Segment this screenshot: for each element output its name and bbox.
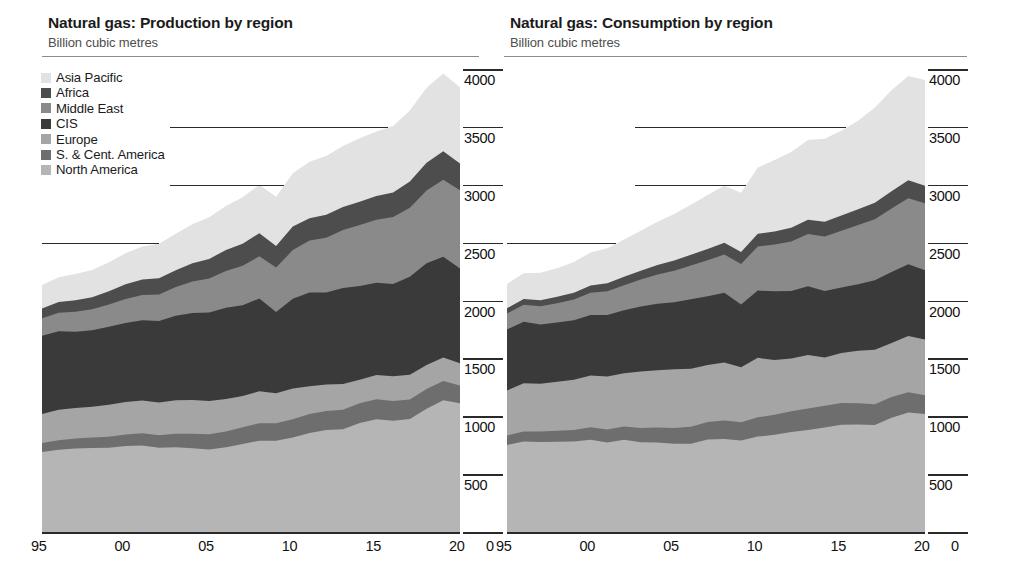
y-tick-label: 2500 xyxy=(929,246,960,262)
y-tick-rule xyxy=(928,474,968,476)
x-tick-label: 00 xyxy=(580,538,596,554)
x-tick-label: 20 xyxy=(449,538,465,554)
y-tick-label: 4000 xyxy=(929,72,960,88)
y-tick-rule xyxy=(928,69,968,71)
page-title-consumption: Natural gas: Consumption by region xyxy=(510,14,773,32)
x-tick-label: 00 xyxy=(115,538,131,554)
y-tick-label: 500 xyxy=(929,477,952,493)
y-tick-rule xyxy=(928,127,968,129)
gridline-3000 xyxy=(170,185,284,186)
gridline-2500 xyxy=(507,243,616,244)
y-tick-rule xyxy=(928,301,968,303)
chart-panel-production: Natural gas: Production by region Billio… xyxy=(0,0,508,574)
x-tick-label: 05 xyxy=(663,538,679,554)
y-zero-rule xyxy=(928,532,968,534)
chart-subtitle: Billion cubic metres xyxy=(48,35,158,50)
x-tick-label: 15 xyxy=(830,538,846,554)
y-tick-rule xyxy=(928,243,968,245)
x-tick-label: 10 xyxy=(282,538,298,554)
x-tick-label: 95 xyxy=(31,538,47,554)
y-tick-label: 2000 xyxy=(929,304,960,320)
x-tick-label: 95 xyxy=(496,538,512,554)
gridline-3000 xyxy=(635,185,746,186)
x-tick-label: 10 xyxy=(747,538,763,554)
x-tick-label: 15 xyxy=(365,538,381,554)
stacked-area-plot-production xyxy=(42,70,460,533)
y-tick-rule xyxy=(928,185,968,187)
y-tick-rule xyxy=(928,416,968,418)
figure-root: Natural gas: Production by region Billio… xyxy=(0,0,1016,574)
stacked-area-plot-consumption xyxy=(507,70,925,533)
y-tick-label: 1000 xyxy=(929,419,960,435)
header-divider xyxy=(42,56,479,57)
chart-subtitle-consumption: Billion cubic metres xyxy=(510,35,620,50)
gridline-3500 xyxy=(170,127,388,128)
gridline-3500 xyxy=(635,127,846,128)
y-tick-rule xyxy=(928,358,968,360)
y-zero-label: 0 xyxy=(951,538,959,554)
chart-panel-consumption: Natural gas: Consumption by region Billi… xyxy=(482,0,1016,574)
x-axis-rule xyxy=(507,532,925,534)
header-divider-consumption xyxy=(504,56,967,57)
x-axis-rule xyxy=(42,532,460,534)
page-title: Natural gas: Production by region xyxy=(48,14,293,32)
y-tick-label: 3000 xyxy=(929,188,960,204)
y-tick-label: 1500 xyxy=(929,361,960,377)
y-tick-label: 3500 xyxy=(929,130,960,146)
x-tick-label: 05 xyxy=(198,538,214,554)
gridline-2500 xyxy=(42,243,159,244)
x-tick-label: 20 xyxy=(914,538,930,554)
